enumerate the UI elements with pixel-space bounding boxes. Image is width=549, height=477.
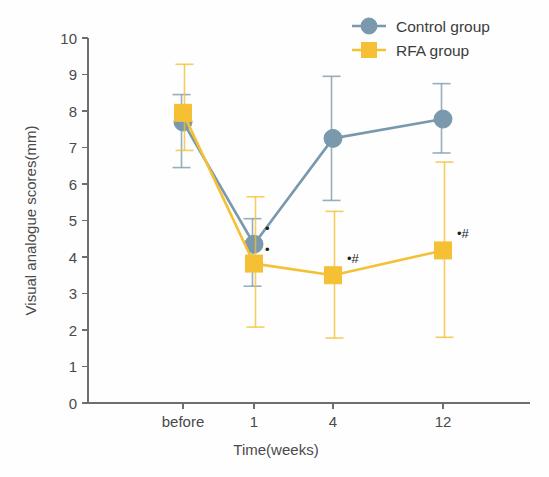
y-tick-label-10: 10: [60, 30, 77, 47]
data-point-control-group-12: [434, 110, 452, 128]
y-tick-label-9: 9: [69, 66, 77, 83]
series-line: [183, 119, 443, 244]
y-tick-label-6: 6: [69, 176, 77, 193]
y-tick-label-1: 1: [69, 358, 77, 375]
y-tick-layer: 109876543210: [60, 30, 88, 412]
x-axis-title: Time(weeks): [233, 441, 318, 458]
sig-dot-hash-rfa-week12: •#: [457, 226, 470, 241]
data-point-rfa-group-1: [246, 255, 263, 272]
series-rfa-group: [175, 64, 454, 338]
legend-marker-circle: [361, 18, 377, 34]
legend-label-rfa-group: RFA group: [396, 42, 469, 59]
y-tick-label-0: 0: [69, 395, 77, 412]
y-tick-label-4: 4: [69, 249, 77, 266]
legend-entry-control-group[interactable]: Control group: [352, 18, 490, 35]
legend-label-control-group: Control group: [396, 18, 490, 35]
axis-title-layer: Time(weeks)Visual analogue scores(mm): [22, 126, 319, 458]
x-tick-label-4: 4: [329, 413, 337, 430]
chart-legend: Control groupRFA group: [352, 18, 490, 59]
axis-layer: [88, 38, 530, 403]
legend-marker-square: [362, 43, 377, 58]
y-tick-label-3: 3: [69, 285, 77, 302]
x-tick-label-before: before: [162, 413, 205, 430]
data-point-control-group-4: [324, 129, 342, 147]
sig-dot-rfa-week1: •: [265, 242, 270, 257]
vas-chart-figure: 109876543210 before1412 •••#•# Control g…: [0, 0, 549, 477]
y-axis-title: Visual analogue scores(mm): [22, 126, 39, 316]
data-point-rfa-group-12: [435, 242, 452, 259]
axis-lines: [88, 38, 530, 403]
sig-dot-hash-rfa-week4: •#: [347, 251, 360, 266]
series-line: [183, 113, 443, 275]
y-tick-label-7: 7: [69, 139, 77, 156]
x-tick-layer: before1412: [162, 403, 452, 430]
data-point-rfa-group-before: [175, 104, 192, 121]
legend-entry-rfa-group[interactable]: RFA group: [352, 42, 469, 59]
data-point-rfa-group-4: [325, 267, 342, 284]
x-tick-label-12: 12: [435, 413, 452, 430]
y-tick-label-8: 8: [69, 103, 77, 120]
chart-canvas: 109876543210 before1412 •••#•# Control g…: [0, 0, 549, 477]
x-tick-label-1: 1: [250, 413, 258, 430]
data-series-layer: [173, 64, 454, 338]
y-tick-label-2: 2: [69, 322, 77, 339]
sig-dot-control-week1: •: [265, 221, 270, 236]
y-tick-label-5: 5: [69, 212, 77, 229]
